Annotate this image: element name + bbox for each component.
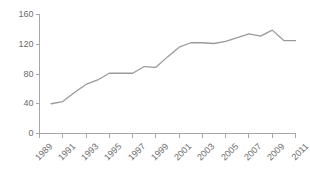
- x-axis-tick-labels: 1989199119931995199719992001200320052007…: [0, 0, 310, 178]
- line-chart: 04080120160 1989199119931995199719992001…: [0, 0, 310, 178]
